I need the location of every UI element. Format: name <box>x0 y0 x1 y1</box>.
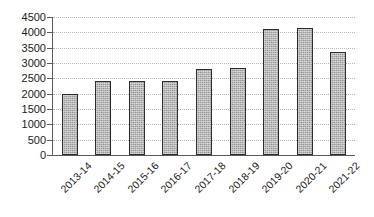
x-tick-label: 2015-16 <box>126 160 161 195</box>
x-tick-label: 2018-19 <box>226 160 261 195</box>
x-tick-label: 2013-14 <box>59 160 94 195</box>
x-tick-label: 2017-18 <box>193 160 228 195</box>
x-axis: 2013-142014-152015-162016-172017-182018-… <box>0 0 374 217</box>
x-tick-label: 2016-17 <box>159 160 194 195</box>
x-tick-label: 2020-21 <box>293 160 328 195</box>
x-tick-label: 2019-20 <box>260 160 295 195</box>
bar-chart: 4500 4000 3500 3000 2500 2000 1500 1000 … <box>0 0 374 217</box>
x-tick-label: 2014-15 <box>92 160 127 195</box>
x-tick-label: 2021-22 <box>327 160 362 195</box>
